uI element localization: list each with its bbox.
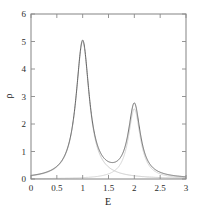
x-tick-label: 2.5 <box>155 183 167 193</box>
plot-background <box>31 14 186 179</box>
y-axis-tick-labels: 0123456 <box>22 9 27 184</box>
x-tick-label: 0 <box>29 183 34 193</box>
chart-svg: 00.511.522.53 0123456 E ρ <box>0 0 201 210</box>
x-tick-label: 3 <box>184 183 189 193</box>
y-axis-title: ρ <box>3 94 14 99</box>
y-tick-label: 4 <box>22 64 27 74</box>
x-axis-tick-labels: 00.511.522.53 <box>29 183 189 193</box>
y-tick-label: 1 <box>22 147 27 157</box>
x-tick-label: 1.5 <box>103 183 115 193</box>
chart-figure: 00.511.522.53 0123456 E ρ <box>0 0 201 210</box>
y-tick-label: 5 <box>22 37 27 47</box>
x-tick-label: 2 <box>132 183 137 193</box>
y-tick-label: 6 <box>22 9 27 19</box>
x-tick-label: 1 <box>80 183 85 193</box>
x-tick-label: 0.5 <box>51 183 63 193</box>
y-tick-label: 2 <box>22 119 27 129</box>
y-tick-label: 0 <box>22 174 27 184</box>
x-axis-title: E <box>105 196 111 207</box>
y-tick-label: 3 <box>22 92 27 102</box>
